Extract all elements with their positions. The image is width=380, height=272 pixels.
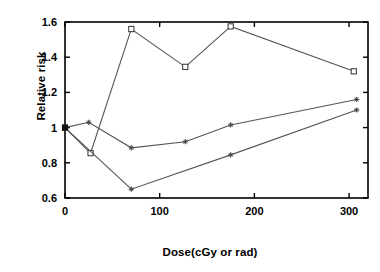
series-line-series-lower-crosses [65, 110, 357, 189]
data-point-cross [129, 145, 134, 150]
x-tick-label: 0 [62, 205, 68, 217]
y-tick-label: 0.8 [42, 157, 57, 169]
plot-area: 0.60.811.21.41.60100200300 [0, 0, 380, 272]
x-tick-label: 200 [245, 205, 263, 217]
y-tick-label: 0.6 [42, 192, 57, 204]
y-tick-label: 1.6 [42, 16, 57, 28]
data-point-cross [183, 139, 188, 144]
data-point-cross [129, 187, 134, 192]
series-line-series-upper-crosses [65, 99, 357, 147]
data-point-cross [354, 97, 359, 102]
chart-figure: 0.60.811.21.41.60100200300 Relative risk… [0, 0, 380, 272]
data-point-cross [354, 107, 359, 112]
data-point-square [351, 69, 356, 74]
x-tick-label: 300 [340, 205, 358, 217]
data-point-cross [228, 152, 233, 157]
data-point-cross [228, 122, 233, 127]
origin-marker [62, 125, 68, 131]
data-point-square [129, 26, 134, 31]
data-point-square [183, 64, 188, 69]
plot-frame [65, 22, 368, 198]
data-point-cross [86, 120, 91, 125]
x-tick-label: 100 [151, 205, 169, 217]
y-tick-label: 1 [51, 122, 57, 134]
y-axis-title: Relative risk [35, 31, 47, 141]
x-axis-title: Dose(cGy or rad) [120, 246, 300, 258]
data-point-square [228, 24, 233, 29]
